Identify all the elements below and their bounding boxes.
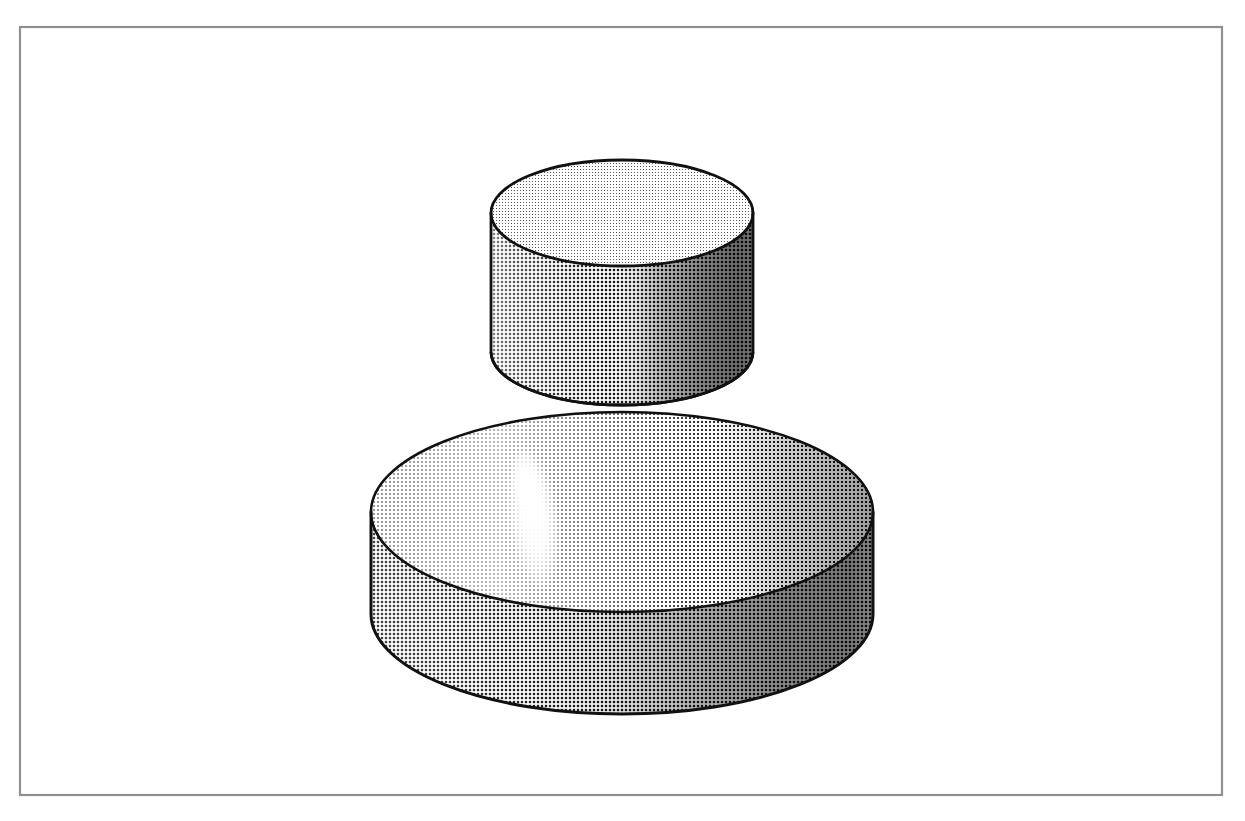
base-cylinder — [360, 400, 885, 730]
technical-drawing-canvas — [0, 0, 1245, 821]
page-root: Stepped Cylinder Isometric Shaded Render… — [0, 0, 1245, 821]
upper-cylinder — [485, 155, 760, 425]
